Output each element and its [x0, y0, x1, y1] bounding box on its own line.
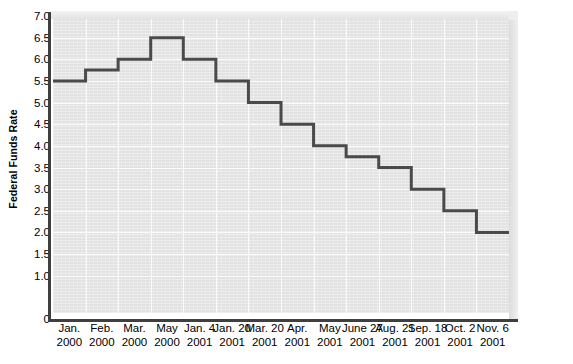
x-tick-label-line1: Jan. [56, 322, 82, 336]
x-tick-label-line2: 2001 [284, 336, 310, 350]
x-tick-label: Oct. 22001 [445, 322, 476, 349]
x-tick-label-line1: May [317, 322, 343, 336]
x-tick-label-line1: Jan. 4 [184, 322, 215, 336]
x-tick-label-line2: 2001 [477, 336, 509, 350]
x-tick-label: Mar.2000 [122, 322, 148, 349]
x-tick-label-line1: Apr. [284, 322, 310, 336]
x-tick-label-line2: 2000 [89, 336, 115, 350]
x-tick-label: May2001 [317, 322, 343, 349]
x-tick-label-line1: May [154, 322, 180, 336]
x-tick-label-line1: Mar. [122, 322, 148, 336]
x-tick-label: Jan. 42001 [184, 322, 215, 349]
x-tick-label-line2: 2001 [445, 336, 476, 350]
x-tick-label: Feb.2000 [89, 322, 115, 349]
x-tick-label-line2: 2000 [154, 336, 180, 350]
x-tick-label: Mar. 202001 [246, 322, 284, 349]
federal-funds-rate-step-series [0, 0, 573, 364]
x-tick-label-line2: 2000 [56, 336, 82, 350]
x-tick-label-line1: Mar. 20 [246, 322, 284, 336]
x-tick-label-line2: 2001 [317, 336, 343, 350]
x-tick-label: Sep. 182001 [408, 322, 448, 349]
x-tick-label-line2: 2000 [122, 336, 148, 350]
x-tick-label-line1: Oct. 2 [445, 322, 476, 336]
x-tick-label: Apr.2001 [284, 322, 310, 349]
x-tick-label-line1: Sep. 18 [408, 322, 448, 336]
x-tick-label-line2: 2001 [408, 336, 448, 350]
x-tick-label-line1: Nov. 6 [477, 322, 509, 336]
x-tick-label-line2: 2001 [184, 336, 215, 350]
x-tick-label: May2000 [154, 322, 180, 349]
x-tick-label: Nov. 62001 [477, 322, 509, 349]
x-axis-tick-labels: Jan.2000Feb.2000Mar.2000May2000Jan. 4200… [0, 322, 573, 364]
x-tick-label: Jan.2000 [56, 322, 82, 349]
x-tick-label-line1: Feb. [89, 322, 115, 336]
chart-container: Federal Funds Rate 7.06.56.05.55.04.54.0… [0, 0, 573, 364]
x-tick-label-line2: 2001 [246, 336, 284, 350]
